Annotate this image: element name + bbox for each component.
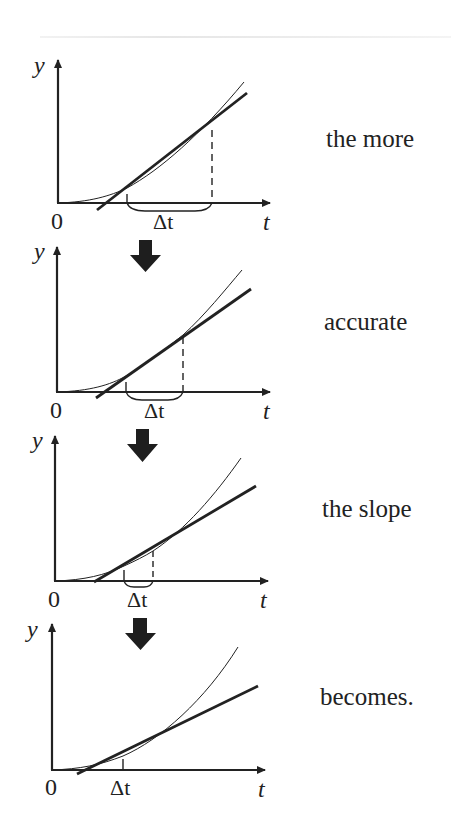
delta-t-label: Δt — [153, 209, 173, 234]
curve — [55, 458, 241, 581]
origin-label: 0 — [45, 774, 57, 800]
caption-2: accurate — [324, 308, 407, 336]
caption-3: the slope — [322, 495, 412, 523]
delta-t-label: Δt — [144, 398, 164, 423]
t-axis-label: t — [258, 776, 266, 802]
secant-line — [96, 289, 251, 398]
origin-label: 0 — [50, 397, 62, 423]
down-arrow-icon — [130, 240, 161, 272]
down-arrow-icon — [127, 429, 158, 462]
y-axis-label: y — [32, 52, 45, 78]
tangent-line — [77, 686, 258, 774]
panel-1: y 0 t Δt — [32, 52, 271, 235]
y-axis-label: y — [25, 616, 38, 642]
y-axis-label: y — [30, 427, 43, 453]
curve — [57, 270, 242, 392]
panel-3: y 0 t Δt — [30, 427, 268, 613]
caption-4: becomes. — [320, 683, 414, 711]
delta-t-label: Δt — [110, 775, 130, 800]
secant-line — [97, 93, 247, 210]
y-axis-label: y — [32, 238, 45, 264]
delta-t-label: Δt — [127, 587, 147, 612]
down-arrow-icon — [125, 618, 156, 650]
t-axis-label: t — [260, 587, 268, 613]
curve — [58, 82, 244, 203]
t-axis-label: t — [263, 398, 271, 424]
origin-label: 0 — [48, 586, 60, 612]
origin-label: 0 — [51, 208, 63, 234]
secant-line — [94, 486, 256, 582]
caption-1: the more — [326, 125, 414, 153]
panel-2: y 0 t Δt — [32, 238, 271, 424]
t-axis-label: t — [263, 209, 271, 235]
